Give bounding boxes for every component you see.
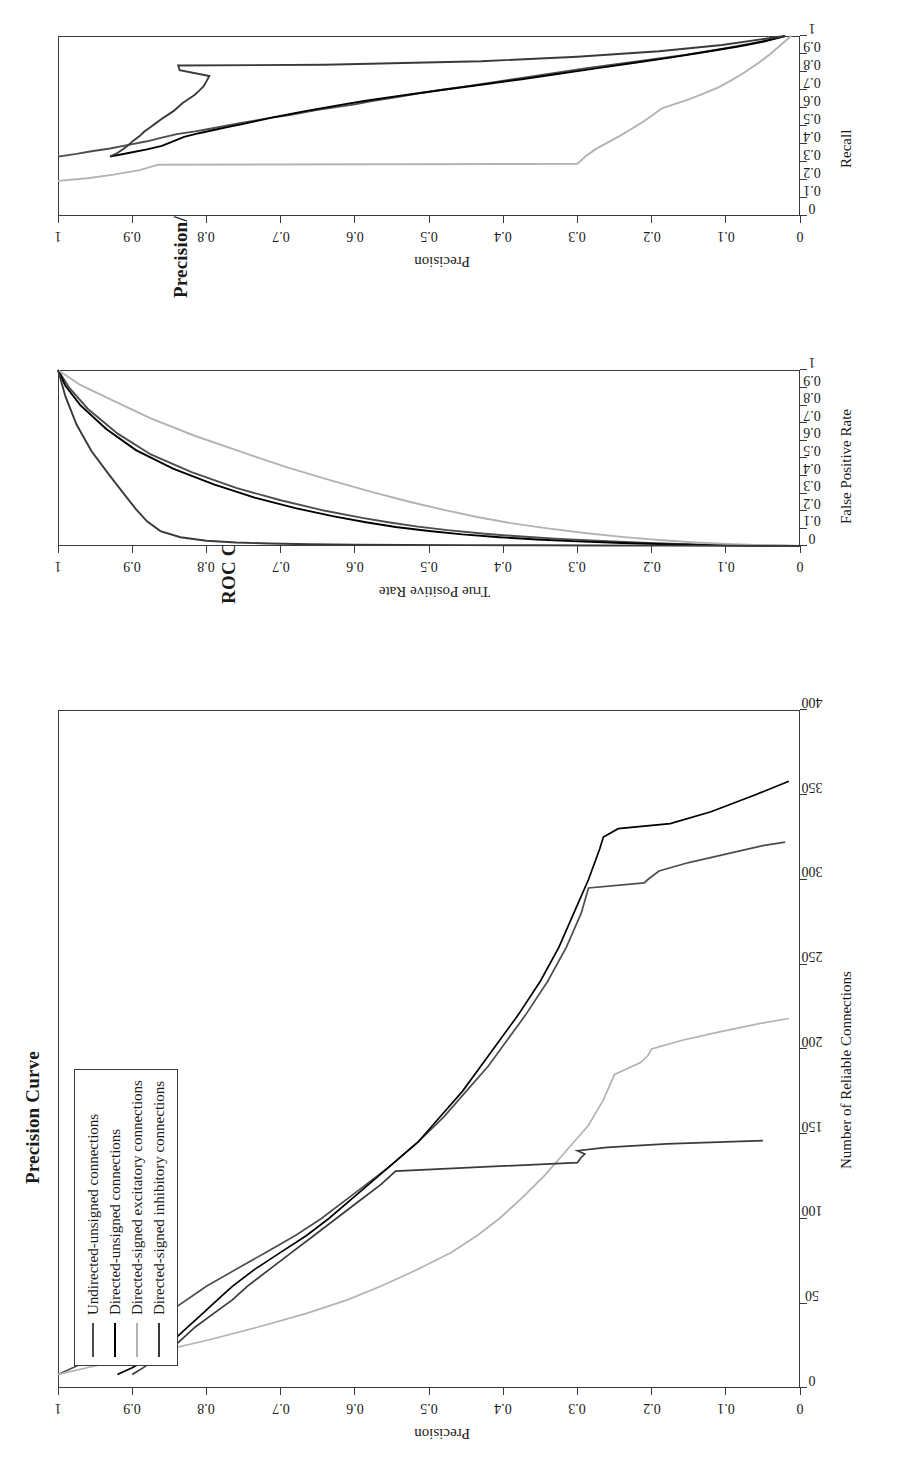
y-axis-tick-label: 0.6 <box>346 558 364 574</box>
y-axis-tick-label: 0.8 <box>198 228 216 244</box>
x-axis-tick-label: 300 <box>802 864 823 880</box>
y-axis-tick <box>132 546 133 553</box>
x-axis-tick-label: 0.8 <box>803 56 821 72</box>
x-axis-tick <box>800 1387 807 1388</box>
series-line <box>132 1141 763 1375</box>
y-axis-tick <box>577 546 578 553</box>
legend-swatch-undirected-unsigned <box>92 1323 94 1357</box>
y-axis-tick-label: 0.6 <box>346 1400 364 1416</box>
x-axis-tick-label: 0.1 <box>803 512 821 528</box>
x-axis-tick-label: 0.3 <box>803 477 821 493</box>
y-axis-tick <box>354 1388 355 1395</box>
series-line <box>58 370 800 546</box>
legend-item: Directed-signed inhibitory connections <box>148 1080 170 1357</box>
x-axis-tick-label: 0.9 <box>803 38 821 54</box>
y-axis-tick <box>280 546 281 553</box>
precision-recall-ylabel: Precision <box>414 253 470 270</box>
x-axis-tick-label: 0.4 <box>803 460 821 476</box>
panel-roc-curve: ROC Curve 00.10.20.30.40.50.60.70.80.910… <box>0 334 902 664</box>
y-axis-tick <box>503 216 504 223</box>
y-axis-tick-label: 0.9 <box>123 558 141 574</box>
x-axis-tick-label: 0.2 <box>803 164 821 180</box>
y-axis-tick <box>206 216 207 223</box>
y-axis-tick-label: 0.3 <box>569 558 587 574</box>
y-axis-tick <box>503 1388 504 1395</box>
y-axis-tick <box>354 216 355 223</box>
y-axis-tick <box>429 1388 430 1395</box>
y-axis-tick-label: 1 <box>55 1400 62 1416</box>
x-axis-tick-label: 100 <box>802 1203 823 1219</box>
series-line <box>58 36 785 157</box>
y-axis-tick-label: 0.5 <box>420 1400 438 1416</box>
y-axis-tick-label: 0.6 <box>346 228 364 244</box>
y-axis-tick-label: 0.3 <box>569 228 587 244</box>
y-axis-tick <box>725 546 726 553</box>
precision-curve-ylabel: Precision <box>414 1425 470 1442</box>
x-axis-tick-label: 150 <box>802 1118 823 1134</box>
x-axis-tick-label: 1 <box>809 354 816 370</box>
y-axis-tick <box>800 546 801 553</box>
legend-item: Directed-signed excitatory connections <box>126 1080 148 1357</box>
x-axis-tick-label: 200 <box>802 1033 823 1049</box>
x-axis-tick-label: 0.5 <box>803 110 821 126</box>
x-axis-tick-label: 0.1 <box>803 182 821 198</box>
legend-swatch-directed-signed-excitatory <box>136 1323 138 1357</box>
y-axis-tick <box>58 546 59 553</box>
y-axis-tick <box>58 1388 59 1395</box>
panel-precision-curve: Precision Curve 050100150200250300350400… <box>0 664 902 1484</box>
y-axis-tick <box>58 216 59 223</box>
x-axis-tick-label: 400 <box>802 694 823 710</box>
y-axis-tick <box>725 1388 726 1395</box>
legend-label-directed-signed-inhibitory: Directed-signed inhibitory connections <box>151 1081 168 1315</box>
y-axis-tick-label: 0.4 <box>494 228 512 244</box>
precision-curve-title: Precision Curve <box>22 1051 44 1184</box>
legend-swatch-directed-signed-inhibitory <box>158 1323 160 1357</box>
y-axis-tick-label: 0.8 <box>198 558 216 574</box>
y-axis-tick <box>206 1388 207 1395</box>
x-axis-tick <box>800 369 807 370</box>
y-axis-tick-label: 0.4 <box>494 558 512 574</box>
y-axis-tick-label: 0.7 <box>272 558 290 574</box>
legend-label-directed-signed-excitatory: Directed-signed excitatory connections <box>129 1080 146 1315</box>
y-axis-tick <box>503 546 504 553</box>
y-axis-tick <box>651 546 652 553</box>
y-axis-tick <box>577 216 578 223</box>
series-line <box>117 781 789 1374</box>
legend-item: Undirected-unsigned connections <box>82 1080 104 1357</box>
y-axis-tick-label: 0.2 <box>643 558 661 574</box>
y-axis-tick-label: 0.5 <box>420 558 438 574</box>
y-axis-tick-label: 0.1 <box>717 558 735 574</box>
x-axis-tick <box>800 215 807 216</box>
y-axis-tick-label: 0.3 <box>569 1400 587 1416</box>
y-axis-tick <box>280 1388 281 1395</box>
y-axis-tick <box>651 216 652 223</box>
x-axis-tick-label: 0.2 <box>803 495 821 511</box>
roc-curve-ylabel: True Positive Rate <box>379 583 490 600</box>
x-axis-tick-label: 250 <box>802 948 823 964</box>
x-axis-tick <box>800 879 807 880</box>
legend-label-directed-unsigned: Directed-unsigned connections <box>107 1129 124 1315</box>
x-axis-tick-label: 0 <box>809 530 816 546</box>
y-axis-tick <box>800 1388 801 1395</box>
figure-canvas: Precision Curve 050100150200250300350400… <box>0 0 902 1484</box>
series-line <box>58 370 800 546</box>
x-axis-tick-label: 0.9 <box>803 372 821 388</box>
x-axis-tick-label: 50 <box>805 1287 819 1303</box>
y-axis-tick-label: 0 <box>797 1400 804 1416</box>
y-axis-tick-label: 1 <box>55 558 62 574</box>
y-axis-tick-label: 0 <box>797 558 804 574</box>
x-axis-tick-label: 0.6 <box>803 92 821 108</box>
y-axis-tick <box>354 546 355 553</box>
y-axis-tick-label: 0.9 <box>123 228 141 244</box>
x-axis-tick <box>800 1218 807 1219</box>
series-line <box>58 36 791 181</box>
precision-recall-series-layer <box>58 36 800 216</box>
y-axis-tick <box>206 546 207 553</box>
x-axis-tick-label: 0.7 <box>803 74 821 90</box>
y-axis-tick-label: 0.7 <box>272 1400 290 1416</box>
y-axis-tick-label: 0.5 <box>420 228 438 244</box>
y-axis-tick <box>651 1388 652 1395</box>
x-axis-tick-label: 0.3 <box>803 146 821 162</box>
x-axis-tick <box>800 545 807 546</box>
y-axis-tick-label: 0.1 <box>717 228 735 244</box>
